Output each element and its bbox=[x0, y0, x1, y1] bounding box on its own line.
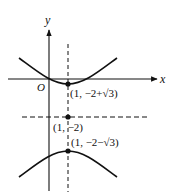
lower-vertex-label: (1, −2−√3) bbox=[71, 136, 119, 149]
upper-vertex-dot bbox=[65, 81, 70, 86]
hyperbola-diagram: x y O (1, −2+√3) (1, −2) (1, −2−√3) bbox=[0, 0, 176, 194]
x-axis-label: x bbox=[159, 72, 166, 86]
center-dot bbox=[65, 114, 70, 119]
upper-vertex-label: (1, −2+√3) bbox=[70, 87, 118, 100]
lower-vertex-dot bbox=[65, 148, 70, 153]
center-label: (1, −2) bbox=[53, 121, 83, 134]
y-axis-label: y bbox=[44, 13, 51, 27]
origin-label: O bbox=[37, 81, 45, 93]
